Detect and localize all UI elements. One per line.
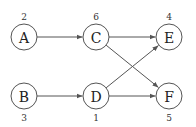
- node-label: B: [19, 89, 29, 105]
- node-a: A2: [11, 12, 37, 50]
- node-label: A: [18, 30, 30, 46]
- node-weight: 6: [93, 12, 99, 22]
- node-e: E4: [156, 12, 182, 50]
- node-b: B3: [11, 83, 37, 123]
- node-label: E: [164, 30, 174, 46]
- node-label: D: [90, 89, 101, 105]
- node-weight: 5: [166, 113, 172, 123]
- node-weight: 1: [93, 113, 99, 123]
- node-weight: 2: [21, 12, 27, 22]
- node-weight: 3: [21, 113, 27, 123]
- node-c: C6: [83, 12, 109, 50]
- nodes-layer: A2C6E4B3D1F5: [11, 12, 182, 123]
- node-label: C: [91, 30, 102, 46]
- node-label: F: [164, 89, 174, 105]
- node-weight: 4: [166, 12, 172, 22]
- directed-graph: A2C6E4B3D1F5: [0, 0, 196, 127]
- node-d: D1: [83, 83, 109, 123]
- node-f: F5: [156, 83, 182, 123]
